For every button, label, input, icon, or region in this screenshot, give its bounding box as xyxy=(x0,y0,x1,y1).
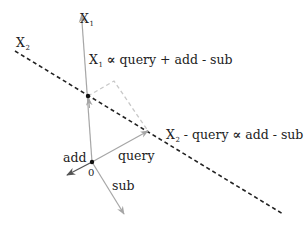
x1-axis-line xyxy=(82,15,93,162)
x1-eq-lhs: X xyxy=(89,52,98,67)
proportional-icon: ∝ xyxy=(107,52,116,67)
x2-eq-lhs: X xyxy=(166,127,175,142)
add-label: add xyxy=(63,152,86,165)
x2-eq-rhs: add - sub xyxy=(245,127,303,142)
origin-label: 0 xyxy=(88,168,94,178)
x2-eq-lhs-rest: - query xyxy=(180,127,229,142)
diagram-canvas xyxy=(0,0,308,226)
x1-vector-arrow xyxy=(89,98,90,108)
x2-label-base: X xyxy=(16,35,25,50)
sub-label: sub xyxy=(112,180,134,193)
x1-equation: X1 ∝ query + add - sub xyxy=(89,53,233,69)
x1-eq-rhs: query + add - sub xyxy=(120,52,233,67)
query-label: query xyxy=(118,150,155,163)
x1-eq-lhs-subscript: 1 xyxy=(98,61,102,69)
intersection-point xyxy=(86,94,90,98)
x2-axis-label: X2 xyxy=(16,37,30,52)
x1-label-base: X xyxy=(80,11,89,26)
proportional-icon: ∝ xyxy=(233,127,242,142)
origin-point xyxy=(90,160,94,164)
x2-label-subscript: 2 xyxy=(25,44,29,52)
x1-label-subscript: 1 xyxy=(89,20,93,28)
x1-axis-label: X1 xyxy=(80,13,94,28)
x2-equation: X2 - query ∝ add - sub xyxy=(166,128,303,144)
projection-dashed-path xyxy=(88,81,148,131)
